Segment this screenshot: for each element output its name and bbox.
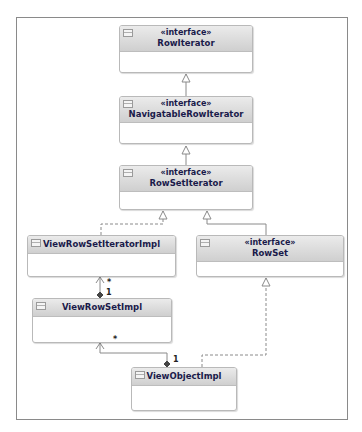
edge-rowsetiterator-to-navigatable xyxy=(182,146,190,165)
class-viewrowsetiteratorimpl[interactable]: ViewRowSetIteratorImpl xyxy=(27,235,176,277)
class-header: «interface» RowIterator xyxy=(120,26,252,52)
edge-voimpl-to-vrsimpl xyxy=(96,343,170,367)
class-name: ViewObjectImpl xyxy=(136,371,232,382)
edge-navigatable-to-rowiterator xyxy=(182,74,190,96)
multiplicity-label: 1 xyxy=(173,355,179,364)
edge-voimpl-to-rowset xyxy=(202,278,270,367)
class-header: «interface» NavigatableRowIterator xyxy=(120,97,252,123)
interface-icon xyxy=(123,29,133,37)
class-viewobjectimpl[interactable]: ViewObjectImpl xyxy=(131,367,237,411)
multiplicity-label: 1 xyxy=(106,288,112,297)
class-name: RowIterator xyxy=(124,38,248,49)
stereotype-label: «interface» xyxy=(124,28,248,38)
multiplicity-label: * xyxy=(107,278,111,287)
class-rowsetiterator[interactable]: «interface» RowSetIterator xyxy=(119,165,253,210)
edge-rowset-to-rowsetiterator xyxy=(203,211,266,235)
class-rowiterator[interactable]: «interface» RowIterator xyxy=(119,25,253,73)
class-icon xyxy=(135,371,145,379)
class-icon xyxy=(36,302,46,310)
class-name: RowSet xyxy=(201,248,339,259)
class-name: ViewRowSetIteratorImpl xyxy=(32,239,171,250)
interface-icon xyxy=(123,169,133,177)
class-header: «interface» RowSetIterator xyxy=(120,166,252,192)
class-header: «interface» RowSet xyxy=(197,236,343,262)
class-name: NavigatableRowIterator xyxy=(124,109,248,120)
stereotype-label: «interface» xyxy=(124,168,248,178)
class-header: ViewRowSetIteratorImpl xyxy=(28,236,175,254)
class-header: ViewObjectImpl xyxy=(132,368,236,386)
class-icon xyxy=(31,239,41,247)
stereotype-label: «interface» xyxy=(124,99,248,109)
edge-vrsiimpl-to-rowsetiterator xyxy=(101,211,167,235)
class-header: ViewRowSetImpl xyxy=(33,299,171,317)
multiplicity-label: * xyxy=(113,335,117,344)
stereotype-label: «interface» xyxy=(201,238,339,248)
class-viewrowsetimpl[interactable]: ViewRowSetImpl xyxy=(32,298,172,343)
class-navigatablerowiterator[interactable]: «interface» NavigatableRowIterator xyxy=(119,96,253,144)
class-name: ViewRowSetImpl xyxy=(37,302,167,313)
interface-icon xyxy=(200,239,210,247)
class-rowset[interactable]: «interface» RowSet xyxy=(196,235,344,277)
class-name: RowSetIterator xyxy=(124,178,248,189)
interface-icon xyxy=(123,100,133,108)
edge-vrsimpl-to-vrsiimpl xyxy=(96,277,104,298)
